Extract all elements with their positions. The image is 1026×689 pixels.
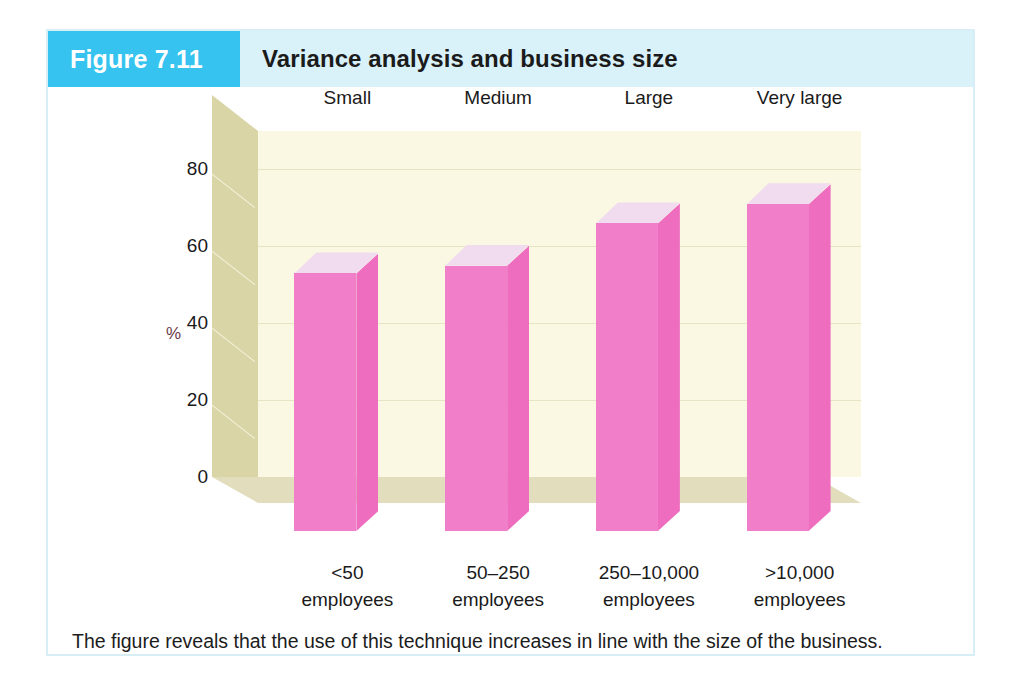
category-label-line2: employees <box>564 586 734 613</box>
bar-side-face <box>658 203 680 531</box>
bar-side-face <box>507 246 529 531</box>
x-axis-category-labels: <50employees50–250employees250–10,000emp… <box>212 559 912 621</box>
category-label-line1: 50–250 <box>413 559 583 586</box>
category-label-4: >10,000employees <box>715 559 885 613</box>
wall-grid-line <box>212 170 255 209</box>
figure-container: Figure 7.11 Variance analysis and busine… <box>46 29 975 656</box>
bar-front-face <box>445 266 507 531</box>
y-axis-title: % <box>166 324 181 344</box>
bar-4 <box>747 204 809 531</box>
y-axis-tick-20: 20 <box>162 389 208 411</box>
chart-canvas: SmallMediumLargeVery large 020406080 % <box>48 87 977 557</box>
bar-front-face <box>294 273 356 531</box>
bar-3 <box>596 223 658 531</box>
category-label-2: 50–250employees <box>413 559 583 613</box>
category-label-3: 250–10,000employees <box>564 559 734 613</box>
figure-number-badge: Figure 7.11 <box>48 31 240 87</box>
left-wall-panel <box>212 95 258 477</box>
y-axis-tick-60: 60 <box>162 235 208 257</box>
category-label-line1: <50 <box>262 559 432 586</box>
category-label-1: <50employees <box>262 559 432 613</box>
category-label-line1: 250–10,000 <box>564 559 734 586</box>
category-label-line2: employees <box>715 586 885 613</box>
figure-header: Figure 7.11 Variance analysis and busine… <box>48 31 973 87</box>
plot-area-3d <box>212 95 861 557</box>
bar-front-face <box>596 223 658 531</box>
grid-line <box>258 169 861 170</box>
wall-grid-line <box>212 246 255 285</box>
category-label-line1: >10,000 <box>715 559 885 586</box>
y-axis-tick-0: 0 <box>162 466 208 488</box>
y-axis-tick-80: 80 <box>162 158 208 180</box>
bar-front-face <box>747 204 809 531</box>
bar-side-face <box>356 253 378 531</box>
y-axis-tick-labels: 020406080 <box>152 87 208 557</box>
category-label-line2: employees <box>262 586 432 613</box>
bar-1 <box>294 273 356 531</box>
figure-title: Variance analysis and business size <box>240 31 973 87</box>
bar-2 <box>445 266 507 531</box>
figure-caption: The figure reveals that the use of this … <box>72 626 954 657</box>
category-label-line2: employees <box>413 586 583 613</box>
wall-grid-line <box>212 323 255 362</box>
wall-grid-line <box>212 400 255 439</box>
bar-side-face <box>809 184 831 531</box>
